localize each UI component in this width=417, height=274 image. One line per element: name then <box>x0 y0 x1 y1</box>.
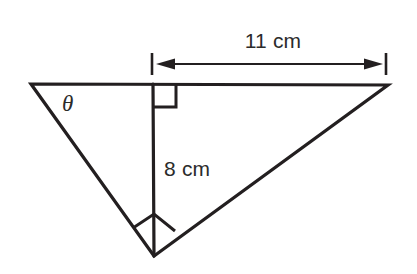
top-dimension-label: 11 cm <box>245 29 302 52</box>
figure-background <box>0 0 417 274</box>
triangle-diagram-svg: 11 cm 8 cm θ <box>0 0 417 274</box>
geometry-figure: 11 cm 8 cm θ <box>0 0 417 274</box>
altitude-label: 8 cm <box>164 157 210 180</box>
altitude-line <box>153 84 154 256</box>
angle-theta-label: θ <box>62 91 73 116</box>
